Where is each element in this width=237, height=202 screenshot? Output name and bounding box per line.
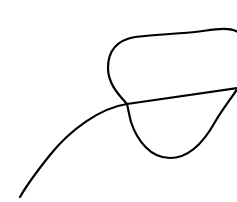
sketch-canvas [0,0,237,202]
tail-curve [20,104,127,197]
blob-outline [108,29,237,158]
